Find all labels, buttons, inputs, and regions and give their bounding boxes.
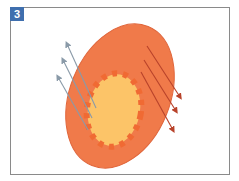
cell-diagram [0, 0, 239, 181]
